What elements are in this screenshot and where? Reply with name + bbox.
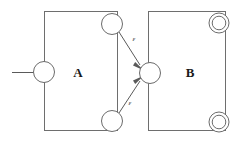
- epsilon-label-top: ε: [133, 35, 136, 43]
- machine-a-label: A: [73, 65, 83, 80]
- epsilon-edge-top: [119, 32, 144, 71]
- machine-b-label: B: [186, 65, 195, 80]
- b-start-state: [140, 63, 161, 84]
- epsilon-edge-bottom: [119, 76, 144, 114]
- a-start-state: [34, 62, 55, 83]
- b-accept-bottom: [209, 112, 229, 132]
- automaton-diagram-svg: A B ε ε: [0, 0, 233, 147]
- diagram-canvas: A B ε ε: [0, 0, 233, 147]
- epsilon-label-bottom: ε: [129, 99, 132, 107]
- b-accept-top: [209, 13, 229, 33]
- a-accept-bottom: [102, 111, 123, 132]
- a-accept-top: [102, 14, 123, 35]
